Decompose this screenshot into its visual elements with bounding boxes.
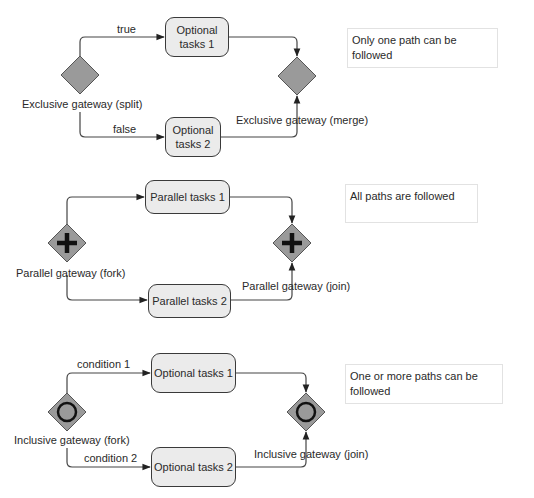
exclusive-merge-label: Exclusive gateway (merge) xyxy=(236,114,368,127)
circle-icon xyxy=(58,403,76,421)
task-optional-1[interactable]: Optional tasks 1 xyxy=(165,17,229,57)
note-exclusive: Only one path can be followed xyxy=(347,28,498,68)
task-parallel-2[interactable]: Parallel tasks 2 xyxy=(148,284,231,318)
flow-label-true: true xyxy=(117,23,136,36)
flow-label-condition-2: condition 2 xyxy=(84,452,137,465)
task-optional-2[interactable]: Optional tasks 2 xyxy=(165,117,221,157)
note-parallel: All paths are followed xyxy=(345,184,478,223)
parallel-fork-gateway[interactable] xyxy=(48,224,86,262)
inclusive-join-label: Inclusive gateway (join) xyxy=(254,448,368,461)
diagram-canvas xyxy=(0,0,534,498)
task-label-line: tasks 1 xyxy=(177,37,218,51)
inclusive-fork-label: Inclusive gateway (fork) xyxy=(14,434,130,447)
task-inclusive-optional-2[interactable]: Optional tasks 2 xyxy=(151,447,236,487)
flow-label-false: false xyxy=(113,123,136,136)
task-label-line: tasks 2 xyxy=(173,137,214,151)
note-inclusive: One or more paths can be followed xyxy=(345,364,503,404)
task-inclusive-optional-1[interactable]: Optional tasks 1 xyxy=(151,353,236,393)
task-parallel-1[interactable]: Parallel tasks 1 xyxy=(145,180,230,214)
exclusive-split-label: Exclusive gateway (split) xyxy=(22,98,142,111)
inclusive-fork-gateway[interactable] xyxy=(48,393,86,431)
parallel-join-label: Parallel gateway (join) xyxy=(242,280,350,293)
parallel-fork-label: Parallel gateway (fork) xyxy=(16,267,125,280)
task-label-line: Optional xyxy=(177,23,218,37)
flow-label-condition-1: condition 1 xyxy=(77,358,130,371)
task-label-line: Optional xyxy=(173,123,214,137)
exclusive-merge-gateway[interactable] xyxy=(278,57,316,95)
inclusive-join-gateway[interactable] xyxy=(287,393,325,431)
circle-icon xyxy=(297,403,315,421)
exclusive-split-gateway[interactable] xyxy=(61,56,99,94)
parallel-join-gateway[interactable] xyxy=(273,224,311,262)
